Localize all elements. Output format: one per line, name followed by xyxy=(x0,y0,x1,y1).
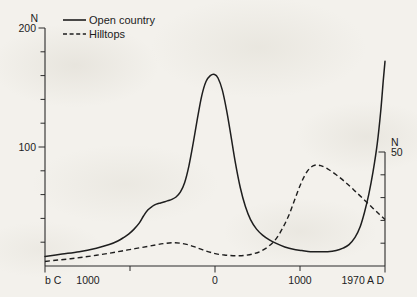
right-y-axis: N 50 xyxy=(379,136,403,266)
series-line-hilltops xyxy=(45,165,385,261)
x-axis-label-0: 0 xyxy=(212,274,218,286)
left-axis-label-200: 200 xyxy=(18,22,36,34)
right-axis-label-50: 50 xyxy=(391,146,403,158)
pollen-line-chart: Open country Hilltops N 200 100 xyxy=(0,0,417,297)
x-axis-label-1000bc: 1000 xyxy=(76,274,100,286)
legend-label-open-country: Open country xyxy=(89,14,156,26)
series-line-open-country xyxy=(45,61,385,256)
x-axis-label-1970ad: 1970 A D xyxy=(341,274,384,286)
legend-label-hilltops: Hilltops xyxy=(89,28,126,40)
x-axis-label-bc: b C xyxy=(45,274,62,286)
x-axis-label-1000ad: 1000 xyxy=(288,274,312,286)
left-axis-label-100: 100 xyxy=(18,141,36,153)
chart-legend: Open country Hilltops xyxy=(63,14,156,40)
x-axis: b C 1000 0 1000 1970 A D xyxy=(45,266,385,286)
left-y-axis: N 200 100 xyxy=(18,12,45,266)
chart-svg: Open country Hilltops N 200 100 xyxy=(0,0,417,297)
